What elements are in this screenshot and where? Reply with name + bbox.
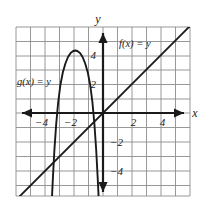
coordinate-plane: −4 −2 2 4 4 2 −2 −4 x y f(x) = y g(x) = … — [0, 0, 208, 212]
x-tick-label-neg4: −4 — [35, 116, 48, 128]
y-tick-label-neg4: −4 — [110, 165, 123, 177]
line-label-fx: f(x) = y — [119, 38, 151, 50]
x-axis-label: x — [191, 106, 198, 120]
y-axis-label: y — [94, 12, 101, 26]
y-tick-label-neg2: −2 — [110, 136, 123, 148]
x-tick-label-4: 4 — [160, 116, 166, 128]
x-tick-label-2: 2 — [131, 116, 137, 128]
graph-figure: −4 −2 2 4 4 2 −2 −4 x y f(x) = y g(x) = … — [0, 0, 208, 212]
parabola-label-gx: g(x) = y — [17, 76, 51, 88]
y-tick-label-4: 4 — [91, 49, 97, 61]
y-tick-label-2: 2 — [91, 78, 97, 90]
x-tick-label-neg2: −2 — [64, 116, 77, 128]
